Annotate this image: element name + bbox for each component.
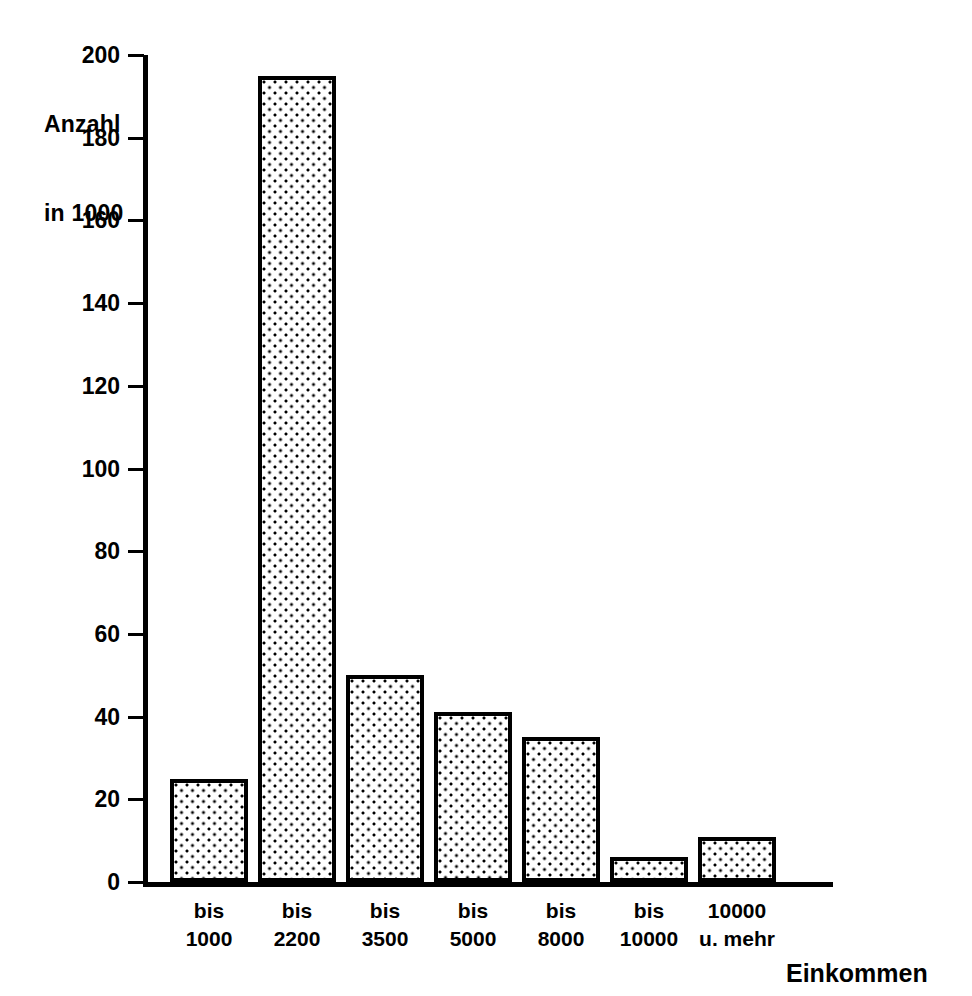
bar-chart: Anzahl in 1000 0204060801001201401601802…	[0, 0, 972, 996]
y-axis-tick	[128, 54, 144, 57]
y-axis-tick-label: 180	[12, 126, 120, 149]
y-axis-tick-label: 160	[12, 209, 120, 232]
bar	[698, 837, 776, 882]
y-axis-tick	[128, 550, 144, 553]
bar	[346, 675, 424, 882]
x-axis-title: Einkommen in N $	[786, 893, 928, 996]
bar	[170, 779, 248, 882]
y-axis-tick-label: 60	[12, 622, 120, 645]
y-axis-tick	[128, 468, 144, 471]
y-axis-tick-label: 140	[12, 292, 120, 315]
y-axis-tick	[128, 633, 144, 636]
bar	[258, 76, 336, 882]
bar	[522, 737, 600, 882]
y-axis-tick-label: 200	[12, 44, 120, 67]
y-axis-tick-label: 80	[12, 540, 120, 563]
y-axis-tick-label: 0	[12, 871, 120, 894]
y-axis-tick	[128, 716, 144, 719]
x-axis-line	[143, 882, 833, 887]
plot-area	[148, 55, 833, 882]
y-axis-tick-label: 120	[12, 374, 120, 397]
y-axis-title: Anzahl in 1000	[44, 50, 123, 289]
y-axis-tick-label: 20	[12, 788, 120, 811]
y-axis-tick	[128, 881, 144, 884]
y-axis-tick-label: 100	[12, 457, 120, 480]
y-axis-tick	[128, 137, 144, 140]
x-axis-title-line-1: Einkommen	[786, 957, 928, 989]
bar	[610, 857, 688, 882]
y-axis-tick-label: 40	[12, 705, 120, 728]
y-axis-tick	[128, 385, 144, 388]
bar	[434, 712, 512, 882]
y-axis-tick	[128, 798, 144, 801]
y-axis-tick	[128, 302, 144, 305]
y-axis-tick	[128, 219, 144, 222]
